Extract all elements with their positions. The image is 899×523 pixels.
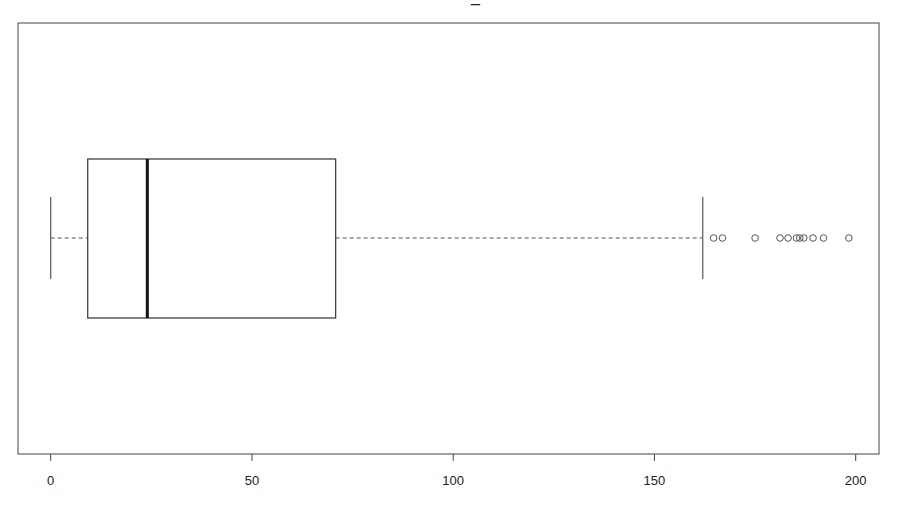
x-axis: 050100150200 — [47, 454, 866, 488]
x-tick-label: 200 — [845, 473, 867, 488]
x-tick-label: 100 — [442, 473, 464, 488]
outliers-group — [710, 235, 852, 242]
x-tick-label: 150 — [644, 473, 666, 488]
outlier-point — [710, 235, 717, 242]
outlier-point — [777, 235, 784, 242]
boxplot-chart: 050100150200 — [0, 0, 899, 523]
iqr-box — [88, 159, 336, 318]
boxplot-group — [51, 159, 703, 318]
outlier-point — [785, 235, 792, 242]
outlier-point — [846, 235, 853, 242]
outlier-point — [820, 235, 827, 242]
x-tick-label: 0 — [47, 473, 54, 488]
x-tick-label: 50 — [245, 473, 259, 488]
outlier-point — [800, 235, 807, 242]
outlier-point — [752, 235, 759, 242]
outlier-point — [810, 235, 817, 242]
outlier-point — [719, 235, 726, 242]
